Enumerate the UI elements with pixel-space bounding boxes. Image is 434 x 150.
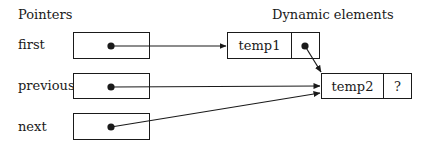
element-link-cell-temp1 [291, 33, 319, 58]
pointer-box-next [73, 113, 150, 140]
element-node-temp1: temp1 [227, 32, 320, 59]
element-value-temp1: temp1 [228, 33, 291, 58]
pointer-label-previous: previous [18, 79, 75, 93]
dynamic-elements-header: Dynamic elements [272, 8, 394, 22]
element-link-cell-temp2: ? [383, 74, 411, 98]
pointer-label-first: first [18, 38, 45, 52]
pointer-box-first [73, 32, 150, 59]
element-node-temp2: temp2 ? [321, 73, 412, 99]
pointer-label-next: next [18, 120, 47, 134]
element-value-temp2: temp2 [322, 74, 383, 98]
pointer-box-previous [73, 73, 150, 99]
pointers-header: Pointers [18, 8, 72, 22]
